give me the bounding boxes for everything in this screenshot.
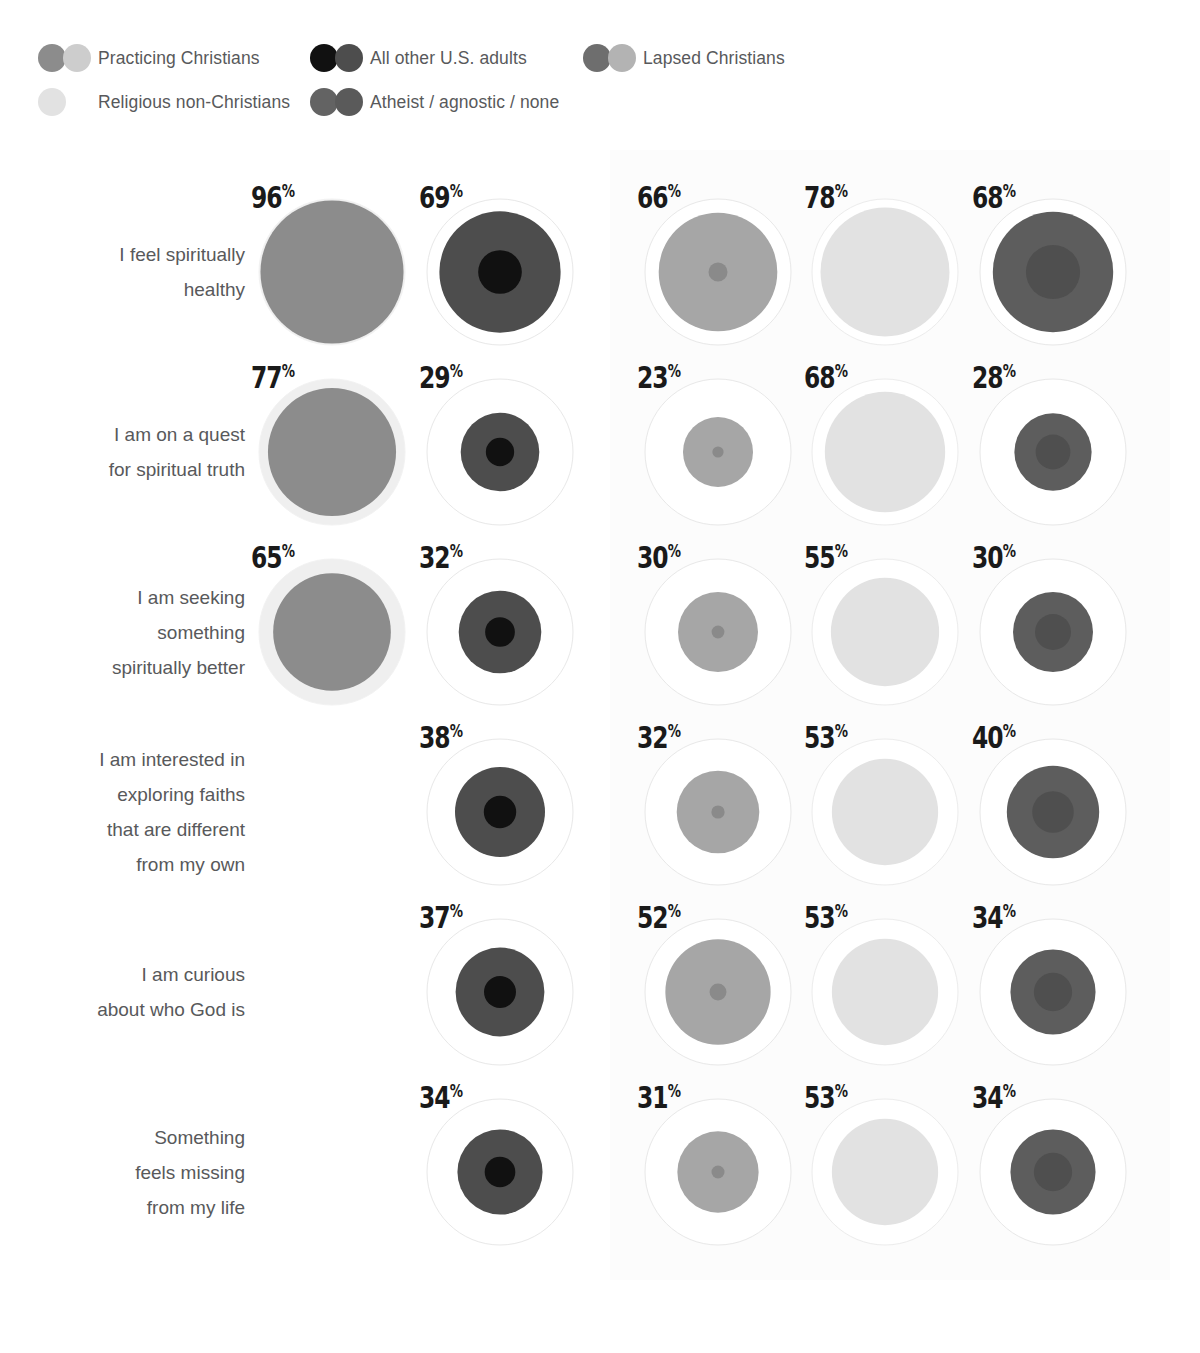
bubble-graphic [425,1097,575,1247]
percent-sign: % [835,1081,848,1101]
value-number: 30 [972,540,1003,575]
bubble-graphic [643,377,793,527]
bubble-graphic [978,377,1128,527]
value-number: 34 [419,1080,450,1115]
value-number: 68 [972,180,1003,215]
bubble-graphic [643,1097,793,1247]
bubble-core-circle [484,976,516,1008]
value-number: 65 [251,540,282,575]
bubble-graphic [425,917,575,1067]
percent-sign: % [835,181,848,201]
row-label-0: I feel spirituallyhealthy [30,237,245,307]
value-number: 34 [972,1080,1003,1115]
bubble-cell-lapsed-christians-r4[interactable]: 52% [643,917,793,1067]
percent-sign: % [668,721,681,741]
bubble-cell-atheist-agnostic-none-r5[interactable]: 34% [978,1097,1128,1247]
bubble-core-circle [711,1165,724,1178]
bubble-cell-atheist-agnostic-none-r3[interactable]: 40% [978,737,1128,887]
row-label-line: I feel spiritually [30,237,245,272]
bubble-cell-religious-non-christians-r3[interactable]: 53% [810,737,960,887]
value-label: 77% [251,363,295,393]
bubble-core-circle [1034,1153,1072,1191]
percent-sign: % [450,361,463,381]
bubble-cell-lapsed-christians-r0[interactable]: 66% [643,197,793,347]
row-label-line: I am interested in [30,742,245,777]
bubble-cell-all-other-us-adults-r2[interactable]: 32% [425,557,575,707]
bubble-cell-lapsed-christians-r1[interactable]: 23% [643,377,793,527]
bubble-cell-lapsed-christians-r3[interactable]: 32% [643,737,793,887]
bubble-cell-atheist-agnostic-none-r1[interactable]: 28% [978,377,1128,527]
bubble-cell-practicing-christians-r1[interactable]: 77% [257,377,407,527]
bubble-cell-religious-non-christians-r0[interactable]: 78% [810,197,960,347]
value-label: 96% [251,183,295,213]
bubble-cell-atheist-agnostic-none-r2[interactable]: 30% [978,557,1128,707]
bubble-cell-atheist-agnostic-none-r0[interactable]: 68% [978,197,1128,347]
value-number: 77 [251,360,282,395]
row-label-line: for spiritual truth [30,452,245,487]
bubble-graphic [978,197,1128,347]
row-label-line: spiritually better [30,650,245,685]
bubble-cell-religious-non-christians-r2[interactable]: 55% [810,557,960,707]
percent-sign: % [450,901,463,921]
bubble-core-circle [1036,435,1071,470]
bubble-value-circle [832,1119,938,1225]
row-label-4: I am curiousabout who God is [30,957,245,1027]
bubble-core-circle [485,1157,516,1188]
bubble-cell-all-other-us-adults-r3[interactable]: 38% [425,737,575,887]
value-number: 69 [419,180,450,215]
row-label-line: something [30,615,245,650]
bubble-graphic [978,557,1128,707]
value-number: 53 [804,720,835,755]
bubble-core-circle [1034,973,1072,1011]
bubble-graphic [425,737,575,887]
value-label: 31% [637,1083,681,1113]
value-label: 68% [972,183,1016,213]
percent-sign: % [668,181,681,201]
bubble-cell-all-other-us-adults-r0[interactable]: 69% [425,197,575,347]
bubble-cell-religious-non-christians-r5[interactable]: 53% [810,1097,960,1247]
bubble-graphic [810,377,960,527]
bubble-cell-lapsed-christians-r5[interactable]: 31% [643,1097,793,1247]
bubble-cell-practicing-christians-r0[interactable]: 96% [257,197,407,347]
bubble-cell-all-other-us-adults-r5[interactable]: 34% [425,1097,575,1247]
bubble-graphic [425,557,575,707]
bubble-graphic [978,917,1128,1067]
bubble-cell-religious-non-christians-r4[interactable]: 53% [810,917,960,1067]
percent-sign: % [835,721,848,741]
bubble-graphic [810,1097,960,1247]
row-label-3: I am interested inexploring faithsthat a… [30,742,245,882]
percent-sign: % [450,541,463,561]
value-label: 66% [637,183,681,213]
row-label-line: feels missing [30,1155,245,1190]
value-label: 34% [419,1083,463,1113]
bubble-graphic [425,197,575,347]
percent-sign: % [668,541,681,561]
bubble-graphic [257,197,407,347]
value-label: 68% [804,363,848,393]
bubble-cell-all-other-us-adults-r1[interactable]: 29% [425,377,575,527]
row-label-line: I am curious [30,957,245,992]
bubble-cell-atheist-agnostic-none-r4[interactable]: 34% [978,917,1128,1067]
value-number: 32 [419,540,450,575]
row-label-line: from my own [30,847,245,882]
row-label-2: I am seekingsomethingspiritually better [30,580,245,685]
percent-sign: % [1003,181,1016,201]
bubble-value-circle [832,759,938,865]
bubble-value-circle [825,392,945,512]
bubble-cell-lapsed-christians-r2[interactable]: 30% [643,557,793,707]
bubble-cell-all-other-us-adults-r4[interactable]: 37% [425,917,575,1067]
percent-sign: % [282,181,295,201]
row-label-line: exploring faiths [30,777,245,812]
bubble-value-circle [831,578,939,686]
value-number: 96 [251,180,282,215]
bubble-cell-religious-non-christians-r1[interactable]: 68% [810,377,960,527]
bubble-cell-practicing-christians-r2[interactable]: 65% [257,557,407,707]
bubble-graphic [978,737,1128,887]
percent-sign: % [282,541,295,561]
value-number: 53 [804,1080,835,1115]
bubble-matrix: I feel spirituallyhealthy96%69%66%78%68%… [0,0,1200,1353]
bubble-core-circle [712,626,725,639]
value-number: 30 [637,540,668,575]
value-label: 53% [804,723,848,753]
value-number: 34 [972,900,1003,935]
